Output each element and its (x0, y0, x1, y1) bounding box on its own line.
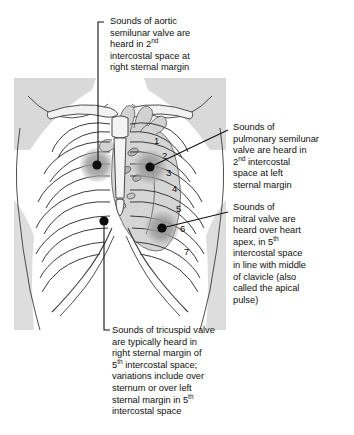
mitral-line-4: apex, in 5 (233, 237, 273, 247)
mitral-line-6: in line with middle (233, 260, 306, 270)
tricuspid-line-6: sternum or over left (112, 383, 192, 393)
pulmonary-line-1: Sounds of (233, 122, 275, 132)
mitral-line-3: heard over heart (233, 225, 301, 235)
mitral-line-2: mitral valve are (233, 214, 296, 224)
tricuspid-leader-line (104, 221, 110, 330)
aortic-ordinal-suffix: nd (151, 37, 158, 44)
tricuspid-line-8: intercostal space (112, 406, 181, 416)
pulmonary-line-3: valve are heard in (233, 145, 307, 155)
tricuspid-line-4-post: intercostal space; (123, 360, 198, 370)
mitral-line-1: Sounds of (233, 202, 275, 212)
pulmonary-line-5: space at left (233, 168, 283, 178)
mitral-line-5: intercostal space (233, 248, 302, 258)
tricuspid-line-2: are typically heard in (112, 337, 197, 347)
cardiac-auscultation-diagram: 1 2 3 4 5 6 7 Sounds of aortic (0, 0, 354, 435)
pulmonary-annotation: Sounds of pulmonary semilunar valve are … (233, 122, 349, 192)
pulmonary-line-6: sternal margin (233, 180, 292, 190)
tricuspid-annotation: Sounds of tricuspid valve are typically … (112, 325, 296, 418)
pulmonary-line-4-post: intercostal (245, 157, 290, 167)
aortic-line-2: semilunar valve are (110, 28, 190, 38)
rib-number-1: 1 (154, 135, 159, 146)
aortic-line-3: heard in 2 (110, 39, 151, 49)
tricuspid-line-1: Sounds of tricuspid valve (112, 325, 215, 335)
mitral-ordinal-suffix: th (273, 235, 278, 242)
tricuspid-line-7: sternal margin in 5 (112, 395, 188, 405)
rib-number-5: 5 (176, 203, 181, 214)
aortic-line-1: Sounds of aortic (110, 16, 177, 26)
mitral-line-9: pulse) (233, 295, 258, 305)
mitral-line-7: of clavicle (also (233, 272, 296, 282)
aortic-line-4: intercostal space at (110, 51, 190, 61)
tricuspid-line-5: variations include over (112, 371, 204, 381)
pulmonary-line-2: pulmonary semilunar (233, 134, 319, 144)
mitral-annotation: Sounds of mitral valve are heard over he… (233, 202, 349, 306)
aortic-annotation: Sounds of aortic semilunar valve are hea… (110, 16, 222, 74)
rib-number-6: 6 (180, 223, 185, 234)
tricuspid-ordinal-suffix-2: th (188, 392, 193, 399)
rib-number-4: 4 (172, 183, 177, 194)
mitral-line-8: called the apical (233, 283, 299, 293)
aortic-line-5: right sternal margin (110, 62, 189, 72)
tricuspid-line-3: right sternal margin of (112, 348, 201, 358)
rib-number-7: 7 (184, 246, 189, 257)
